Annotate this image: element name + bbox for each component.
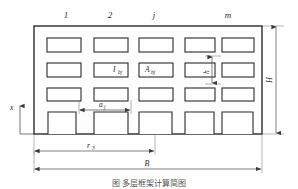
column-label-1: 1 [64,10,69,20]
figure-caption: 图 多层框架计算简图 [112,178,186,188]
ground-opening [48,112,76,134]
ground-opening [94,112,128,134]
total-height-symbol: H [265,76,274,84]
column-label-2: 2 [108,10,113,20]
ground-opening [222,112,253,134]
r3-dimension: r 3 [34,134,155,155]
inertia-subscript: bj [118,69,123,75]
area-subscript: bj [151,69,156,75]
opening [185,38,215,52]
r3-symbol: r [87,141,91,150]
opening [185,88,215,101]
opening [222,63,254,77]
total-width-symbol: B [145,159,150,168]
opening [47,63,81,77]
inertia-symbol: I [112,65,116,74]
opening [222,38,254,52]
opening [139,38,173,52]
opening [47,38,81,52]
opening [139,88,173,101]
column-label-j: j [152,10,156,20]
opening [185,63,215,77]
opening [94,38,128,52]
bay-width-symbol: a [99,100,103,109]
total-height-dimension: H [262,26,284,134]
r3-subscript: 3 [91,145,95,151]
opening [47,88,81,101]
ground-opening [185,112,214,134]
total-width-dimension: B [34,134,262,173]
story-height-symbol: h [202,70,211,74]
opening [222,88,254,101]
figure-root: 1 2 j m I bj A bj a j h [0,0,298,189]
opening [94,63,128,77]
x-axis: x [9,103,34,134]
column-label-m: m [225,10,232,20]
x-axis-label: x [9,103,14,112]
ground-opening [139,112,172,134]
frame-wall-diagram: 1 2 j m I bj A bj a j h [0,0,298,189]
area-symbol: A [144,65,150,74]
